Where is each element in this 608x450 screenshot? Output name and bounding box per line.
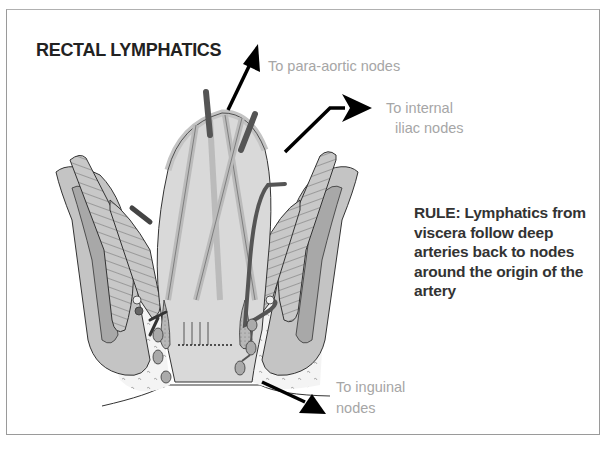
- arrowhead-para-aortic-icon: [243, 44, 260, 72]
- arrowhead-inguinal-icon: [299, 394, 326, 414]
- rule-text: RULE: Lymphatics from viscera follow dee…: [414, 203, 608, 301]
- rule-line-3: arteries back to nodes: [414, 242, 608, 262]
- label-para-aortic: To para-aortic nodes: [268, 56, 400, 76]
- lymph-node: [235, 361, 245, 375]
- rule-line-4: around the origin of the: [414, 262, 608, 282]
- figure-title: RECTAL LYMPHATICS: [36, 40, 221, 61]
- label-internal-iliac-line1: To internal: [386, 98, 453, 118]
- arrow-para-aortic: [228, 60, 252, 110]
- middle-rectal-vessel-left: [132, 208, 150, 222]
- rule-line-2: viscera follow deep: [414, 223, 608, 243]
- lymph-node: [247, 319, 257, 331]
- rule-line-5: artery: [414, 281, 608, 301]
- superior-rectal-vessel: [206, 92, 210, 135]
- arrowhead-internal-iliac-icon: [342, 94, 372, 122]
- rule-line-1: RULE: Lymphatics from: [414, 203, 608, 223]
- label-inguinal-line2: nodes: [336, 398, 376, 418]
- label-inguinal-line1: To inguinal: [336, 377, 405, 397]
- lymph-node: [161, 371, 171, 383]
- lymph-node: [153, 328, 163, 342]
- lymph-node: [246, 341, 256, 355]
- label-internal-iliac-line2: iliac nodes: [395, 118, 464, 138]
- arrow-internal-iliac: [285, 108, 345, 152]
- lymph-node: [153, 350, 163, 364]
